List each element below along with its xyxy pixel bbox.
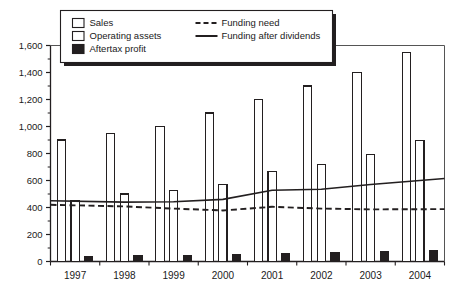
- legend-label: Funding after dividends: [222, 30, 321, 41]
- y-tick-label: 1,400: [19, 67, 43, 78]
- y-tick-label: 400: [27, 202, 43, 213]
- x-tick-label-2000: 2000: [212, 270, 235, 281]
- bar-aftertax-profit-2000: [232, 254, 240, 261]
- bar-operating-assets-2003: [367, 154, 375, 261]
- bar-aftertax-profit-2004: [429, 250, 437, 261]
- bar-aftertax-profit-1999: [183, 255, 191, 261]
- x-tick-label-1999: 1999: [162, 270, 185, 281]
- bar-sales-2002: [304, 86, 312, 262]
- bar-aftertax-profit-1997: [85, 256, 93, 261]
- bar-operating-assets-2002: [317, 164, 325, 261]
- x-tick-label-1998: 1998: [113, 270, 136, 281]
- bar-operating-assets-2004: [416, 141, 424, 262]
- legend-open-square-icon: [73, 19, 85, 28]
- x-tick-label-2003: 2003: [359, 270, 382, 281]
- bar-sales-2003: [353, 73, 361, 262]
- legend-item-aftertax-profit: Aftertax profit: [73, 43, 147, 54]
- bar-line-combo-chart: 02004006008001,0001,2001,4001,600 199719…: [0, 0, 454, 296]
- bar-sales-2004: [402, 52, 410, 261]
- y-tick-label: 1,000: [19, 121, 43, 132]
- legend-open-square-icon: [73, 32, 85, 41]
- bar-aftertax-profit-2003: [380, 251, 388, 261]
- bar-operating-assets-2001: [268, 171, 276, 261]
- bar-aftertax-profit-2002: [331, 253, 339, 262]
- x-tick-label-1997: 1997: [64, 270, 87, 281]
- legend-label: Funding need: [222, 17, 280, 28]
- y-tick-label: 600: [27, 175, 43, 186]
- bar-sales-2001: [254, 100, 262, 262]
- y-tick-label: 200: [27, 229, 43, 240]
- y-tick-label: 800: [27, 148, 43, 159]
- bar-operating-assets-1997: [71, 201, 79, 262]
- legend-label: Aftertax profit: [90, 43, 147, 54]
- chart-container: 02004006008001,0001,2001,4001,600 199719…: [0, 0, 454, 296]
- legend-label: Operating assets: [90, 30, 162, 41]
- bar-operating-assets-1998: [120, 194, 128, 262]
- bar-sales-1998: [107, 133, 115, 261]
- bar-operating-assets-2000: [219, 185, 227, 262]
- bar-aftertax-profit-1998: [134, 255, 142, 261]
- bar-sales-1999: [156, 127, 164, 262]
- bar-aftertax-profit-2001: [282, 253, 290, 261]
- x-tick-label-2001: 2001: [261, 270, 284, 281]
- legend-filled-square-icon: [73, 45, 85, 54]
- bar-sales-2000: [205, 113, 213, 262]
- legend-label: Sales: [90, 17, 114, 28]
- legend-item-sales: Sales: [73, 17, 114, 28]
- y-tick-label: 1,200: [19, 94, 43, 105]
- y-tick-label: 0: [37, 256, 42, 267]
- y-tick-label: 1,600: [19, 40, 43, 51]
- x-tick-label-2004: 2004: [409, 270, 432, 281]
- x-tick-label-2002: 2002: [310, 270, 333, 281]
- chart-legend: SalesOperating assetsAftertax profitFund…: [61, 11, 337, 67]
